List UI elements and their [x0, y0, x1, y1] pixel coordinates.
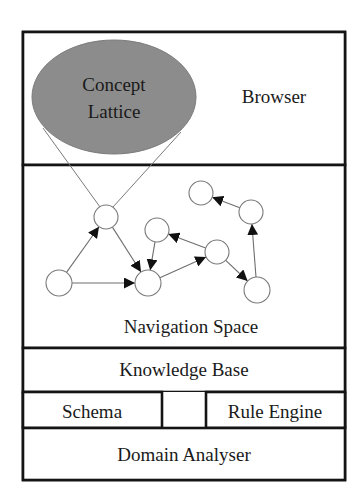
graph-node-h: [244, 277, 270, 303]
domain-analyser-label: Domain Analyser: [117, 444, 251, 465]
graph-node-e: [189, 181, 213, 205]
architecture-diagram: Browser Navigation Space Knowledge Base …: [0, 0, 364, 503]
concept-lattice-ellipse: [32, 40, 196, 154]
rule-engine-label: Rule Engine: [228, 401, 322, 422]
concept-lattice-label-line2: Lattice: [88, 101, 141, 122]
graph-node-c: [135, 270, 161, 296]
knowledge-base-layer: Knowledge Base: [23, 348, 345, 392]
concept-lattice-label-line1: Concept: [82, 74, 146, 95]
graph-node-d: [145, 218, 169, 242]
graph-node-a: [94, 205, 118, 229]
concept-lattice: Concept Lattice: [32, 40, 196, 154]
navigation-space-label: Navigation Space: [124, 316, 259, 337]
graph-node-b: [46, 270, 72, 296]
schema-label: Schema: [62, 401, 123, 422]
knowledge-base-label: Knowledge Base: [119, 359, 248, 380]
navigation-space-layer: Navigation Space: [23, 165, 345, 348]
domain-analyser-layer: Domain Analyser: [23, 428, 345, 480]
graph-node-f: [239, 200, 263, 224]
schema-layer: Schema: [23, 392, 162, 428]
browser-label: Browser: [242, 86, 307, 107]
graph-node-g: [205, 240, 229, 264]
rule-engine-layer: Rule Engine: [206, 392, 345, 428]
